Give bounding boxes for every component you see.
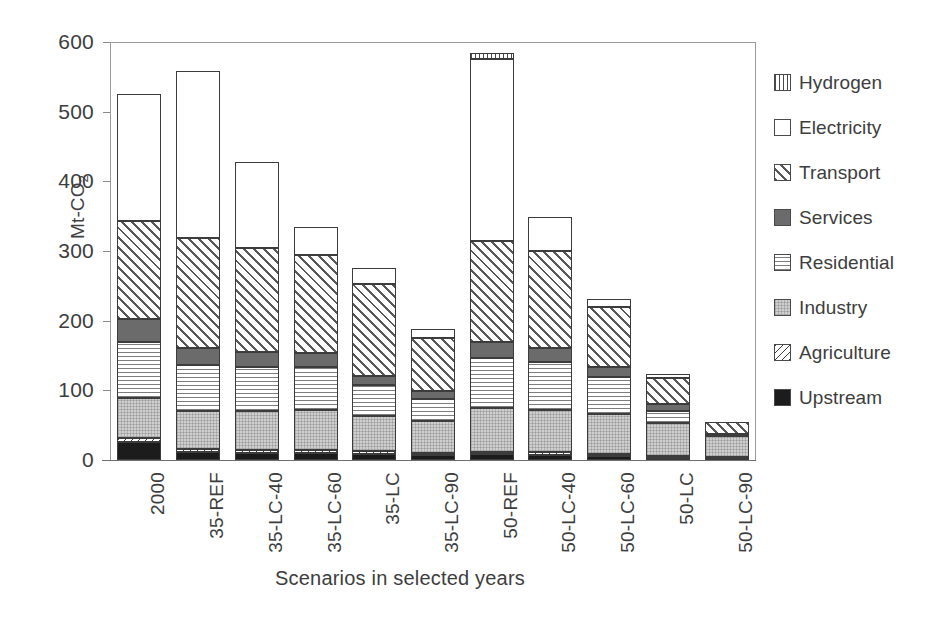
bar-group[interactable] <box>470 42 514 460</box>
bar-segment-services[interactable] <box>646 404 690 410</box>
bar-segment-residential[interactable] <box>235 367 279 411</box>
bar-segment-agriculture[interactable] <box>646 456 690 458</box>
bar-segment-services[interactable] <box>294 353 338 368</box>
bar-segment-residential[interactable] <box>176 365 220 411</box>
bar-segment-electricity[interactable] <box>117 94 161 221</box>
bar-segment-residential[interactable] <box>352 385 396 416</box>
bar-segment-upstream[interactable] <box>235 453 279 460</box>
bar-segment-agriculture[interactable] <box>176 449 220 452</box>
bar-group[interactable] <box>117 42 161 460</box>
bar-segment-residential[interactable] <box>411 399 455 421</box>
bar-segment-residential[interactable] <box>587 377 631 414</box>
bar-segment-electricity[interactable] <box>528 217 572 251</box>
bar-segment-transport[interactable] <box>705 422 749 433</box>
bar-segment-electricity[interactable] <box>294 227 338 256</box>
bar-segment-services[interactable] <box>528 348 572 363</box>
bar-segment-services[interactable] <box>411 391 455 399</box>
bar-group[interactable] <box>646 42 690 460</box>
bar-segment-transport[interactable] <box>176 238 220 347</box>
legend-swatch-icon <box>774 299 791 316</box>
bar-segment-transport[interactable] <box>411 338 455 391</box>
bar-segment-agriculture[interactable] <box>705 457 749 459</box>
bar-segment-agriculture[interactable] <box>411 453 455 455</box>
legend-item-transport[interactable]: Transport <box>774 150 939 195</box>
bar-segment-hydrogen[interactable] <box>470 53 514 59</box>
bar-segment-agriculture[interactable] <box>352 451 396 454</box>
bar-segment-electricity[interactable] <box>176 71 220 238</box>
bar-segment-industry[interactable] <box>117 398 161 438</box>
x-axis-tick-label: 35-LC <box>382 472 404 525</box>
bar-segment-electricity[interactable] <box>587 299 631 307</box>
bar-segment-industry[interactable] <box>176 411 220 449</box>
y-axis-tick-label: 300 <box>38 239 94 263</box>
bar-segment-industry[interactable] <box>470 408 514 452</box>
bar-segment-electricity[interactable] <box>470 59 514 242</box>
x-axis-title: Scenarios in selected years <box>0 567 800 590</box>
bar-segment-services[interactable] <box>235 352 279 367</box>
legend-label: Industry <box>799 297 867 319</box>
y-axis-tick-mark <box>103 42 110 43</box>
bar-segment-industry[interactable] <box>587 414 631 454</box>
bar-segment-agriculture[interactable] <box>235 450 279 453</box>
bar-segment-agriculture[interactable] <box>528 452 572 455</box>
x-axis-tick-label: 50-LC-60 <box>617 472 639 553</box>
bar-segment-industry[interactable] <box>646 423 690 456</box>
bar-segment-transport[interactable] <box>528 251 572 348</box>
bar-segment-transport[interactable] <box>117 221 161 319</box>
x-axis-tick-label: 35-LC-60 <box>324 472 346 553</box>
bar-segment-services[interactable] <box>176 348 220 365</box>
bar-segment-agriculture[interactable] <box>117 438 161 441</box>
legend-label: Residential <box>799 252 894 274</box>
bar-segment-industry[interactable] <box>294 410 338 450</box>
bar-segment-transport[interactable] <box>235 248 279 352</box>
bar-segment-industry[interactable] <box>528 410 572 452</box>
bar-segment-transport[interactable] <box>352 284 396 375</box>
bar-segment-services[interactable] <box>705 434 749 436</box>
bar-segment-industry[interactable] <box>411 421 455 453</box>
bar-segment-transport[interactable] <box>294 255 338 353</box>
bar-segment-residential[interactable] <box>117 342 161 398</box>
bar-segment-residential[interactable] <box>528 362 572 409</box>
bar-segment-agriculture[interactable] <box>587 454 631 456</box>
legend-item-services[interactable]: Services <box>774 195 939 240</box>
legend-item-industry[interactable]: Industry <box>774 285 939 330</box>
bar-segment-residential[interactable] <box>294 367 338 409</box>
x-axis-tick-label: 50-LC-40 <box>558 472 580 553</box>
legend-item-agriculture[interactable]: Agriculture <box>774 330 939 375</box>
bar-group[interactable] <box>528 42 572 460</box>
y-axis-tick-label: 0 <box>38 448 94 472</box>
bar-segment-electricity[interactable] <box>411 329 455 338</box>
bar-segment-electricity[interactable] <box>235 162 279 248</box>
bar-segment-residential[interactable] <box>470 358 514 408</box>
bar-segment-services[interactable] <box>352 376 396 386</box>
bar-segment-services[interactable] <box>470 342 514 358</box>
bar-segment-electricity[interactable] <box>352 268 396 284</box>
bar-group[interactable] <box>705 42 749 460</box>
bar-segment-industry[interactable] <box>235 411 279 451</box>
bar-segment-industry[interactable] <box>705 436 749 458</box>
bar-segment-electricity[interactable] <box>646 374 690 378</box>
bar-segment-upstream[interactable] <box>176 452 220 460</box>
bar-segment-industry[interactable] <box>352 416 396 451</box>
bar-segment-upstream[interactable] <box>117 442 161 460</box>
bar-group[interactable] <box>352 42 396 460</box>
bar-segment-services[interactable] <box>587 367 631 377</box>
legend-item-residential[interactable]: Residential <box>774 240 939 285</box>
legend-item-electricity[interactable]: Electricity <box>774 105 939 150</box>
legend-item-upstream[interactable]: Upstream <box>774 375 939 420</box>
bar-segment-agriculture[interactable] <box>470 452 514 455</box>
bar-segment-services[interactable] <box>117 319 161 343</box>
bar-segment-upstream[interactable] <box>294 453 338 460</box>
bar-group[interactable] <box>411 42 455 460</box>
bar-segment-transport[interactable] <box>587 307 631 368</box>
bar-group[interactable] <box>294 42 338 460</box>
bar-group[interactable] <box>235 42 279 460</box>
bar-segment-agriculture[interactable] <box>294 450 338 453</box>
bar-segment-transport[interactable] <box>646 378 690 404</box>
bar-segment-transport[interactable] <box>470 241 514 341</box>
bar-segment-residential[interactable] <box>646 411 690 424</box>
x-axis-baseline <box>102 460 756 461</box>
bar-group[interactable] <box>176 42 220 460</box>
bar-group[interactable] <box>587 42 631 460</box>
legend-item-hydrogen[interactable]: Hydrogen <box>774 60 939 105</box>
